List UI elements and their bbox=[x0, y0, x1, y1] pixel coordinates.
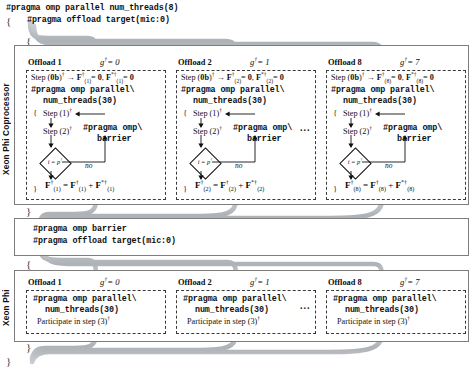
label-xeon-phi-coprocessor: Xeon Phi Coprocessor bbox=[2, 47, 11, 211]
brace-open-xeonphi: { bbox=[26, 258, 31, 270]
decision-condition: i = p† bbox=[35, 158, 75, 165]
num-threads: num_threads(30) bbox=[195, 305, 269, 315]
offload-card-bottom-2[interactable]: Offload 2 g†= 1 #pragma omp parallel\ nu… bbox=[176, 278, 316, 334]
step-1-node: Step (1)† bbox=[343, 109, 372, 118]
brace-close-outer: } bbox=[6, 355, 11, 367]
offload-g-label: g†= 1 bbox=[250, 57, 269, 67]
decision-node: i = p† bbox=[335, 147, 389, 177]
top-pragma-parallel: #pragma omp parallel num_threads(8) bbox=[6, 3, 178, 13]
offload-header: Offload 2 g†= 1 bbox=[176, 58, 316, 70]
decision-node: i = p† bbox=[185, 147, 239, 177]
pragma-parallel: #pragma omp parallel\ bbox=[333, 294, 436, 304]
offload-body: Step (0b)† → F†(2)= 0, F*†(2)= 0 #pragma… bbox=[176, 70, 316, 200]
decision-no-label: no bbox=[85, 161, 92, 170]
brace-close-inner: } bbox=[33, 184, 37, 194]
brace-close-xeonphi: } bbox=[26, 341, 31, 353]
ellipsis-top-row: ... bbox=[300, 122, 311, 133]
ellipsis-bottom-row: ... bbox=[300, 300, 311, 311]
barrier-pragma-omp: #pragma omp barrier bbox=[33, 224, 127, 234]
offload-title: Offload 2 bbox=[178, 58, 212, 67]
offload-body: Step (0b)† → F†(1)= 0, F*†(1)= 0 #pragma… bbox=[26, 70, 166, 200]
barrier-pragma-offload: #pragma offload target(mic:0) bbox=[33, 236, 176, 246]
brace-close-coprocessor: } bbox=[26, 205, 31, 217]
pragma-parallel: #pragma omp parallel\ bbox=[183, 294, 286, 304]
step-0b-line: Step (0b)† → F†(8)= 0, F*†(8)= 0 bbox=[331, 73, 434, 82]
pragma-parallel: #pragma omp parallel\ bbox=[33, 294, 136, 304]
num-threads: num_threads(30) bbox=[45, 305, 119, 315]
offload-g-label: g†= 1 bbox=[250, 277, 269, 287]
brace-open-inner: { bbox=[33, 108, 37, 118]
offload-g-label: g†= 0 bbox=[100, 277, 119, 287]
participate-step-3: Participate in step (3)† bbox=[37, 317, 110, 326]
offload-header: Offload 2 g†= 1 bbox=[176, 278, 316, 290]
pragma-barrier-line2: barrier bbox=[247, 134, 281, 144]
brace-open-inner: { bbox=[333, 108, 337, 118]
decision-condition: i = p† bbox=[185, 158, 225, 165]
offload-card-top-1[interactable]: Offload 1 g†= 0 Step (0b)† → F†(1)= 0, F… bbox=[26, 58, 166, 200]
brace-close-inner: } bbox=[183, 184, 187, 194]
offload-card-top-2[interactable]: Offload 2 g†= 1 Step (0b)† → F†(2)= 0, F… bbox=[176, 58, 316, 200]
pragma-barrier-line1: #pragma omp\ bbox=[383, 123, 442, 133]
pragma-barrier-line2: barrier bbox=[397, 134, 431, 144]
brace-open-outer: { bbox=[6, 15, 11, 27]
offload-title: Offload 2 bbox=[178, 278, 212, 287]
figure-canvas: #pragma omp parallel num_threads(8) { #p… bbox=[0, 0, 474, 383]
offload-title: Offload 8 bbox=[328, 58, 362, 67]
offload-header: Offload 1 g†= 0 bbox=[26, 278, 166, 290]
step-2-node: Step (2)† bbox=[343, 127, 372, 136]
top-pragma-offload: #pragma offload target(mic:0) bbox=[27, 15, 170, 25]
num-threads: num_threads(30) bbox=[345, 305, 419, 315]
offload-body: #pragma omp parallel\ num_threads(30) Pa… bbox=[326, 290, 466, 334]
step-0b-line: Step (0b)† → F†(2)= 0, F*†(2)= 0 bbox=[181, 73, 284, 82]
step-2-node: Step (2)† bbox=[193, 127, 222, 136]
offload-g-label: g†= 7 bbox=[400, 57, 419, 67]
pragma-barrier-line1: #pragma omp\ bbox=[233, 123, 292, 133]
step-0b-line: Step (0b)† → F†(1)= 0, F*†(1)= 0 bbox=[31, 73, 134, 82]
force-accumulation-equation: F†(8) = F†(8) + F*†(8) bbox=[345, 180, 414, 190]
pragma-parallel: #pragma omp parallel\ bbox=[31, 85, 134, 95]
decision-no-label: no bbox=[235, 161, 242, 170]
pragma-parallel: #pragma omp parallel\ bbox=[181, 85, 284, 95]
num-threads: num_threads(30) bbox=[343, 96, 417, 106]
offload-card-bottom-8[interactable]: Offload 8 g†= 7 #pragma omp parallel\ nu… bbox=[326, 278, 466, 334]
pragma-barrier-line2: barrier bbox=[97, 134, 131, 144]
offload-body: #pragma omp parallel\ num_threads(30) Pa… bbox=[176, 290, 316, 334]
offload-body: #pragma omp parallel\ num_threads(30) Pa… bbox=[26, 290, 166, 334]
step-1-node: Step (1)† bbox=[43, 109, 72, 118]
offload-header: Offload 8 g†= 7 bbox=[326, 278, 466, 290]
participate-step-3: Participate in step (3)† bbox=[187, 317, 260, 326]
offload-g-label: g†= 7 bbox=[400, 277, 419, 287]
offload-header: Offload 1 g†= 0 bbox=[26, 58, 166, 70]
offload-header: Offload 8 g†= 7 bbox=[326, 58, 466, 70]
decision-condition: i = p† bbox=[335, 158, 375, 165]
offload-card-top-8[interactable]: Offload 8 g†= 7 Step (0b)† → F†(8)= 0, F… bbox=[326, 58, 466, 200]
force-accumulation-equation: F†(2) = F†(2) + F*†(2) bbox=[195, 180, 264, 190]
offload-title: Offload 1 bbox=[28, 58, 62, 67]
pragma-barrier-line1: #pragma omp\ bbox=[83, 123, 142, 133]
step-1-node: Step (1)† bbox=[193, 109, 222, 118]
decision-node: i = p† bbox=[35, 147, 89, 177]
num-threads: num_threads(30) bbox=[193, 96, 267, 106]
brace-close-inner: } bbox=[333, 184, 337, 194]
num-threads: num_threads(30) bbox=[43, 96, 117, 106]
offload-title: Offload 1 bbox=[28, 278, 62, 287]
brace-open-inner: { bbox=[183, 108, 187, 118]
pragma-parallel: #pragma omp parallel\ bbox=[331, 85, 434, 95]
offload-g-label: g†= 0 bbox=[100, 57, 119, 67]
decision-no-label: no bbox=[385, 161, 392, 170]
offload-title: Offload 8 bbox=[328, 278, 362, 287]
offload-body: Step (0b)† → F†(8)= 0, F*†(8)= 0 #pragma… bbox=[326, 70, 466, 200]
step-2-node: Step (2)† bbox=[43, 127, 72, 136]
label-xeon-phi: Xeon Phi bbox=[2, 272, 11, 344]
participate-step-3: Participate in step (3)† bbox=[337, 317, 410, 326]
force-accumulation-equation: F†(1) = F†(1) + F*†(1) bbox=[45, 180, 114, 190]
offload-card-bottom-1[interactable]: Offload 1 g†= 0 #pragma omp parallel\ nu… bbox=[26, 278, 166, 334]
